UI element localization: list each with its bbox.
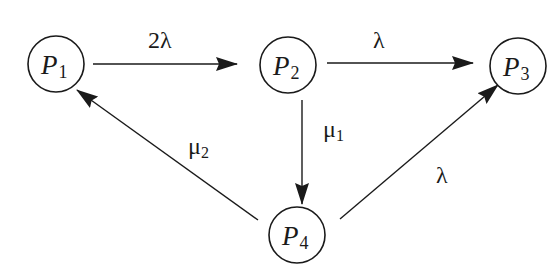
node-p2: P2 [260, 37, 316, 93]
edge-p4-p1: μ2 [77, 90, 258, 220]
edge-p4-p3: λ [340, 85, 498, 219]
edge-p2-p3: λ [327, 27, 473, 63]
edge-label-p4-p1: μ2 [188, 133, 209, 161]
edge-label-p4-p3: λ [436, 162, 448, 188]
node-p3: P3 [490, 38, 546, 94]
edge-label-p2-p4: μ1 [323, 116, 344, 144]
arrow-p4-to-p1 [77, 90, 258, 220]
state-transition-diagram: 2λ λ μ1 μ2 λ P1 [0, 0, 560, 273]
arrow-p4-to-p3 [340, 85, 498, 219]
edge-p1-p2: 2λ [93, 27, 237, 64]
edge-label-p1-p2: 2λ [148, 27, 172, 53]
node-p1: P1 [28, 36, 84, 92]
node-p4: P4 [269, 207, 325, 263]
edge-p2-p4: μ1 [302, 100, 344, 204]
edge-label-p2-p3: λ [373, 27, 385, 53]
